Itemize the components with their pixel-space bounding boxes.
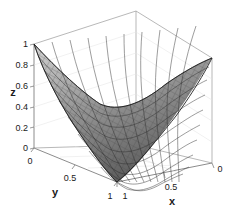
z-tickmark xyxy=(30,107,34,108)
z-tickmark xyxy=(30,127,34,128)
z-tick-label-0-4: 0.4 xyxy=(15,102,28,112)
surface-mesh xyxy=(34,26,212,191)
z-axis: 1 0.8 0.6 0.4 0.2 0 z xyxy=(10,39,34,153)
x-tick-label-1: 1 xyxy=(122,191,127,201)
z-tick-label-0-2: 0.2 xyxy=(15,123,28,133)
z-tick-label-0-8: 0.8 xyxy=(15,60,28,70)
y-tick-label-1: 1 xyxy=(107,191,112,201)
z-tick-label-0: 0 xyxy=(23,143,28,153)
y-tick-label-0: 0 xyxy=(27,156,32,166)
y-tickmark xyxy=(72,165,75,169)
y-tickmark xyxy=(114,182,117,186)
z-axis-title: z xyxy=(10,86,16,98)
box-top-edges xyxy=(34,11,212,58)
x-tickmark xyxy=(212,163,214,168)
y-tick-label-0-5: 0.5 xyxy=(64,173,77,183)
z-tickmark xyxy=(30,86,34,87)
surface-plot-figure: 1 0.8 0.6 0.4 0.2 0 z 0 0.5 1 y 1 0.5 0 xyxy=(0,0,230,213)
z-tick-label-0-6: 0.6 xyxy=(15,81,28,91)
y-axis-title: y xyxy=(52,186,59,198)
z-tickmark xyxy=(30,65,34,66)
z-tickmark xyxy=(30,44,34,45)
x-tick-label-0: 0 xyxy=(217,164,222,174)
z-tick-label-1: 1 xyxy=(23,39,28,49)
x-tick-label-0-5: 0.5 xyxy=(165,182,178,192)
plot-canvas: 1 0.8 0.6 0.4 0.2 0 z 0 0.5 1 y 1 0.5 0 xyxy=(0,0,230,213)
x-axis-title: x xyxy=(169,195,176,207)
